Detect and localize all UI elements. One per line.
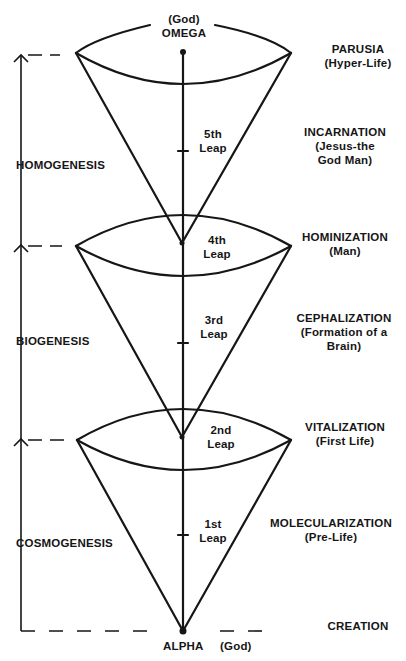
leap-2: 2ndLeap	[205, 423, 237, 451]
omega-label: (God) OMEGA	[153, 12, 215, 40]
stage-molecularization: MOLECULARIZATION (Pre-Life)	[258, 516, 404, 544]
omega-point	[180, 49, 186, 55]
stage-vitalization: VITALIZATION (First Life)	[295, 420, 395, 448]
omega-god: (God)	[153, 12, 215, 26]
stage-incarnation: INCARNATION (Jesus-the God Man)	[290, 125, 400, 167]
stage-creation: CREATION	[318, 619, 398, 633]
stage-cephalization: CEPHALIZATION (Formation of a Brain)	[286, 311, 402, 353]
stage-parusia: PARUSIA (Hyper-Life)	[308, 42, 406, 70]
era-homogenesis: HOMOGENESIS	[16, 158, 105, 172]
era-biogenesis: BIOGENESIS	[16, 334, 90, 348]
stage-hominization: HOMINIZATION (Man)	[290, 230, 400, 258]
top-ellipse-upper-arc-right	[215, 25, 291, 53]
era-cosmogenesis: COSMOGENESIS	[16, 536, 113, 550]
top-ellipse-upper-arc	[76, 25, 150, 53]
top-cone-left-side	[76, 53, 182, 243]
leap-1: 1stLeap	[197, 517, 229, 545]
alpha-god: (God)	[220, 640, 252, 652]
omega-name: OMEGA	[153, 26, 215, 40]
leap-5: 5thLeap	[197, 127, 229, 155]
alpha-label: ALPHA (God)	[163, 639, 252, 653]
leap-4: 4thLeap	[201, 233, 233, 261]
alpha-point	[180, 628, 187, 635]
alpha-name: ALPHA	[163, 640, 203, 652]
leap-3: 3rdLeap	[198, 313, 230, 341]
